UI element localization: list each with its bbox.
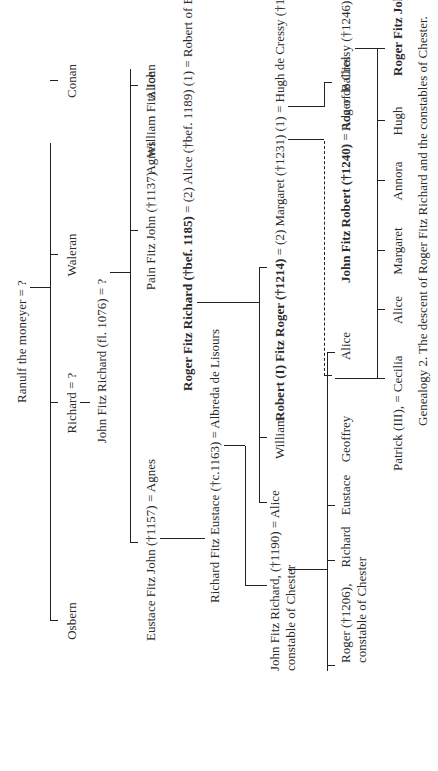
line-robert-down — [288, 139, 324, 140]
dashed-bar-alice — [324, 141, 325, 376]
line-eustace-down — [160, 538, 205, 539]
person-ranulf: Ranulf the moneyer = ? — [14, 280, 29, 403]
person-annora: Annora — [390, 162, 405, 201]
person-richard: Richard = ? — [64, 373, 79, 434]
sibling-bar-g3-right — [130, 96, 131, 211]
sibling-bar-g5-left — [245, 446, 246, 586]
figure-caption: Genealogy 2. The descent of Roger Fitz R… — [415, 16, 431, 426]
robert-fitz-roger-marriage: = (2) Margaret (†1231) (1) = Hugh de Cre… — [272, 0, 287, 259]
roger-fitz-richard-marriage: = (2) Alice (†bef. 1189) (1) = Robert of… — [180, 0, 195, 216]
person-john-fitz-richard-title: constable of Chester — [283, 565, 298, 671]
person-richard-g6: Richard — [338, 526, 353, 567]
roger-fitz-richard-name: Roger Fitz Richard (†bef. 1185) — [180, 216, 195, 391]
tick-waleran — [50, 254, 58, 255]
tick-alice-g7 — [377, 309, 385, 310]
person-alice-g3: Alice — [143, 72, 158, 100]
tick-john-fitz-richard — [245, 585, 267, 586]
person-john-fitz-richard-constable: John Fitz Richard, (†1190) = Alice — [267, 490, 282, 671]
line-rfe-down — [224, 445, 245, 446]
person-margaret: Margaret — [390, 227, 405, 274]
line-jfrobert-down — [355, 48, 377, 49]
person-eustace-fitz-john: Eustace Fitz John (†1157) = Agnes — [143, 459, 158, 641]
person-roger-fitz-richard: Roger Fitz Richard (†bef. 1185) = (2) Al… — [180, 0, 195, 391]
line-ranulf-down — [30, 287, 50, 288]
person-hugh: Hugh — [390, 107, 405, 136]
tick-conan — [50, 80, 58, 81]
line-jfr-constable-down — [288, 569, 327, 570]
line-eustace-cecilia — [335, 378, 377, 379]
person-conan: Conan — [64, 64, 79, 98]
person-roger-constable: Roger (†1206), — [338, 584, 353, 663]
tick-annora — [377, 180, 385, 181]
person-roger-fitz-john: Roger Fitz John (†1249) = Isabella of Du… — [390, 0, 405, 76]
tick-geoffrey-g6 — [327, 352, 335, 353]
bar-cressy — [324, 83, 325, 107]
genealogy-chart: Ranulf the moneyer = ? Osbern Richard = … — [0, 0, 438, 771]
john-fitz-robert-name: John Fitz Robert (†1240) — [338, 144, 353, 283]
tick-richard — [50, 402, 58, 403]
tick-hugh — [377, 120, 385, 121]
person-patrick: Patrick (III), = Cecilia — [390, 355, 405, 471]
tick-eustace-g6 — [327, 505, 335, 506]
person-agnes: Agnes — [143, 141, 158, 174]
person-eustace-g6: Eustace — [338, 475, 353, 515]
line-richard-down — [80, 402, 90, 403]
person-john-fitz-richard: John Fitz Richard (fl. 1076) = ? — [94, 279, 109, 443]
tick-robert — [259, 267, 267, 268]
tick-margaret — [377, 250, 385, 251]
person-roger-de-cressy: Roger de Cressy (†1246) — [338, 1, 353, 131]
line-cressy-down — [288, 106, 324, 107]
person-robert-fitz-roger: Robert (I) Fitz Roger (†1214) = (2) Marg… — [272, 0, 287, 421]
person-waleran: Waleran — [64, 234, 79, 277]
tick-roger-de-cressy — [324, 82, 332, 83]
tick-eustace — [130, 542, 138, 543]
tick-william-g5 — [259, 437, 267, 438]
sibling-bar-g7 — [377, 49, 378, 379]
person-osbern: Osbern — [64, 602, 79, 640]
roger-fitz-john-name: Roger Fitz John (†1249) — [390, 0, 405, 76]
tick-william — [130, 85, 138, 86]
sibling-bar-g2 — [50, 143, 51, 621]
tick-roger-fitz-john — [377, 48, 385, 49]
robert-fitz-roger-name: Robert (I) Fitz Roger (†1214) — [272, 259, 287, 421]
tick-pain — [130, 230, 138, 231]
tick-richard-g6 — [327, 560, 335, 561]
tick-osbern — [50, 620, 58, 621]
tick-cecilia — [377, 378, 385, 379]
person-geoffrey-g6: Geoffrey — [338, 416, 353, 463]
sibling-bar-g6-left — [327, 353, 328, 671]
line-john-down — [110, 272, 130, 273]
tick-alice-g5 — [259, 502, 267, 503]
person-richard-fitz-eustace: Richard Fitz Eustace (†c.1163) = Albreda… — [207, 329, 222, 603]
tick-alice-g6 — [324, 375, 332, 376]
person-pain-fitz-john: Pain Fitz John (†1137) — [143, 172, 158, 290]
person-alice-g6: Alice — [338, 332, 353, 360]
person-william-g5: William — [272, 417, 287, 459]
person-roger-constable-title: constable of Chester — [354, 557, 369, 663]
person-alice-g7: Alice — [390, 296, 405, 324]
sibling-bar-g5-right — [259, 268, 260, 503]
tick-roger-g6 — [327, 665, 335, 666]
line-rfr-down — [197, 302, 259, 303]
